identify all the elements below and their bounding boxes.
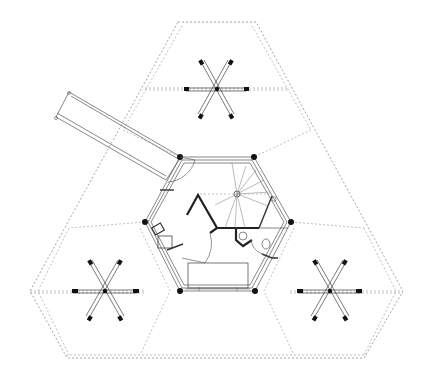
bed — [188, 263, 248, 288]
sink-icon — [239, 232, 247, 240]
star-support-bottom-right — [297, 259, 362, 321]
star-support-top — [184, 59, 249, 119]
interior-layout — [152, 157, 288, 291]
outer-footprint — [30, 22, 403, 358]
star-support-bottom-left — [72, 259, 139, 321]
toilet-icon — [262, 239, 270, 249]
chair — [152, 223, 183, 250]
bedroom-door-swing — [182, 233, 211, 263]
access-ramp — [55, 92, 182, 181]
